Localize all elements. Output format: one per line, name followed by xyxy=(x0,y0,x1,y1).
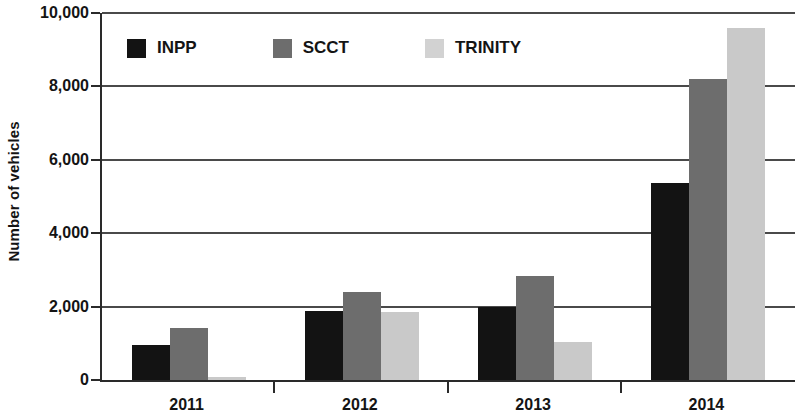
x-tick-label-2012: 2012 xyxy=(342,396,378,414)
plot-area xyxy=(100,13,795,382)
y-tick-label: 2,000 xyxy=(5,298,89,316)
bar-inpp-2013 xyxy=(478,307,516,380)
y-tick-label: 10,000 xyxy=(5,4,89,22)
legend-item-inpp[interactable]: INPP xyxy=(127,38,197,58)
bar-inpp-2012 xyxy=(305,311,343,380)
bar-trinity-2014 xyxy=(727,28,765,380)
y-tick-label: 0 xyxy=(5,371,89,389)
legend-swatch-inpp-icon xyxy=(127,39,146,58)
gridline xyxy=(102,12,795,14)
y-tick-mark xyxy=(91,306,100,308)
bar-scct-2013 xyxy=(516,276,554,380)
y-tick-label: 6,000 xyxy=(5,151,89,169)
bar-trinity-2013 xyxy=(554,342,592,380)
y-tick-mark xyxy=(91,85,100,87)
bar-inpp-2014 xyxy=(651,183,689,380)
y-tick-mark xyxy=(91,12,100,14)
y-tick-mark xyxy=(91,379,100,381)
y-tick-mark xyxy=(91,232,100,234)
bar-scct-2014 xyxy=(689,79,727,380)
legend-item-scct[interactable]: SCCT xyxy=(273,38,349,58)
x-tick-mark xyxy=(273,382,275,393)
bar-scct-2012 xyxy=(343,292,381,380)
bar-chart: Number of vehicles 02,0004,0006,0008,000… xyxy=(0,0,795,416)
legend-label: INPP xyxy=(157,38,197,58)
y-tick-label: 4,000 xyxy=(5,224,89,242)
legend-swatch-scct-icon xyxy=(273,39,292,58)
bar-inpp-2011 xyxy=(132,345,170,380)
bar-scct-2011 xyxy=(170,328,208,380)
x-axis: 2011201220132014 xyxy=(100,382,793,416)
chart-legend: INPPSCCTTRINITY xyxy=(127,38,521,58)
legend-label: SCCT xyxy=(303,38,349,58)
x-tick-label-2014: 2014 xyxy=(689,396,725,414)
x-tick-mark xyxy=(620,382,622,393)
legend-item-trinity[interactable]: TRINITY xyxy=(425,38,521,58)
y-tick-mark xyxy=(91,159,100,161)
x-tick-mark xyxy=(447,382,449,393)
x-tick-label-2011: 2011 xyxy=(169,396,204,414)
legend-swatch-trinity-icon xyxy=(425,39,444,58)
y-tick-label: 8,000 xyxy=(5,77,89,95)
legend-label: TRINITY xyxy=(455,38,521,58)
bar-trinity-2012 xyxy=(381,312,419,380)
x-tick-label-2013: 2013 xyxy=(515,396,551,414)
y-axis-title: Number of vehicles xyxy=(0,0,26,382)
bar-trinity-2011 xyxy=(208,377,246,380)
